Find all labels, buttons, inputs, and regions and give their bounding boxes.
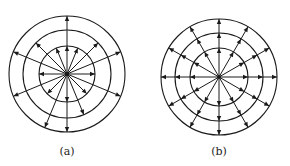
field-ray xyxy=(169,77,219,106)
caption-a: (a) xyxy=(47,145,87,158)
field-ray xyxy=(36,43,67,74)
caption-b: (b) xyxy=(199,145,239,158)
arrowhead-icon xyxy=(217,116,221,121)
arrowhead-icon xyxy=(217,48,221,53)
arrowhead-icon xyxy=(65,16,69,21)
arrowhead-icon xyxy=(65,127,69,132)
center-point xyxy=(65,72,69,76)
arrowhead-icon xyxy=(39,72,44,76)
arrowhead-icon xyxy=(90,72,95,76)
arrowhead-icon xyxy=(243,75,248,79)
center-point xyxy=(217,75,221,79)
arrowhead-icon xyxy=(190,75,195,79)
panel-a-radial-field-diagram xyxy=(9,16,125,132)
arrowhead-icon xyxy=(161,75,166,79)
arrowhead-icon xyxy=(175,75,180,79)
arrowhead-icon xyxy=(65,97,69,102)
arrowhead-icon xyxy=(217,130,221,135)
panel-b-radial-field-diagram xyxy=(161,19,277,135)
arrowhead-icon xyxy=(217,19,221,24)
figure-canvas xyxy=(0,0,290,166)
field-ray xyxy=(169,48,219,77)
arrowhead-icon xyxy=(258,75,263,79)
arrowhead-icon xyxy=(217,101,221,106)
arrowhead-icon xyxy=(272,75,277,79)
arrowhead-icon xyxy=(65,46,69,51)
arrowhead-icon xyxy=(217,33,221,38)
field-ray xyxy=(67,43,98,74)
